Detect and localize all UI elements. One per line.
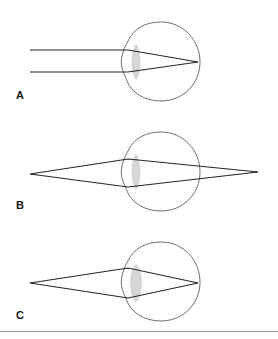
ray-upper-b [30,159,258,174]
ray-upper-c [30,268,198,283]
ray-lower-b [30,172,258,187]
panel-label-b: B [16,200,24,211]
panel-b: B [0,110,278,220]
ray-upper-a [30,50,198,62]
panel-label-a: A [16,90,24,101]
footer-divider [0,331,278,332]
ray-lower-a [30,62,198,72]
panel-c-diagram [0,220,278,330]
panel-a-diagram [0,0,278,110]
panel-c: C [0,220,278,330]
panel-label-c: C [16,310,24,321]
ray-lower-c [30,283,198,298]
panel-a: A [0,0,278,110]
lens-a [132,44,141,80]
panel-b-diagram [0,110,278,220]
figure-root: A B C [0,0,278,339]
